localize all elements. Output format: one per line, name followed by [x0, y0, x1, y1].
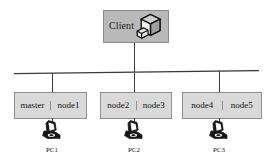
- node-group-box[interactable]: node4 node5: [182, 92, 262, 119]
- network-topology-diagram: Client master: [0, 0, 273, 166]
- node-cell: master: [15, 101, 51, 110]
- node-group-box[interactable]: master node1: [14, 92, 87, 119]
- bus-to-group-1-connector: [52, 73, 53, 93]
- bus-to-group-2-connector: [134, 73, 135, 93]
- desktop-computer-icon[interactable]: [122, 119, 146, 143]
- bus-to-group-3-connector: [219, 71, 220, 93]
- network-bus-line: [14, 70, 259, 75]
- pc-label: PC3: [204, 146, 234, 154]
- client-node[interactable]: Client: [103, 10, 169, 43]
- client-label: Client: [109, 20, 134, 31]
- pc-label: PC1: [37, 146, 67, 154]
- pc-label: PC2: [119, 146, 149, 154]
- node-cell: node3: [137, 101, 172, 110]
- node-cell: node1: [51, 101, 86, 110]
- node-group-box[interactable]: node2 node3: [100, 92, 172, 119]
- desktop-computer-icon[interactable]: [40, 119, 64, 143]
- client-to-bus-connector: [134, 43, 135, 72]
- node-cell: node4: [183, 101, 223, 110]
- node-cell: node2: [101, 101, 137, 110]
- node-cell: node5: [223, 101, 262, 110]
- cube-3d-icon: [134, 12, 165, 43]
- desktop-computer-icon[interactable]: [207, 119, 231, 143]
